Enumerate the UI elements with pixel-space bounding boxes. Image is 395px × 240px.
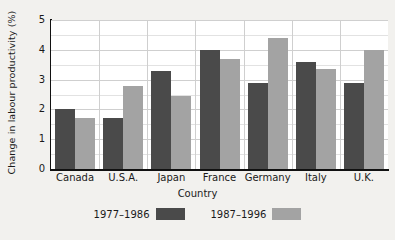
bar-group — [248, 20, 288, 169]
bar — [171, 96, 191, 169]
x-tick-label: Canada — [56, 172, 94, 184]
x-axis-line — [50, 169, 389, 171]
legend-color-swatch — [156, 208, 185, 220]
y-tick-label: 4 — [25, 45, 45, 55]
bar — [200, 50, 220, 169]
bar-group — [344, 20, 384, 169]
legend-entry: 1977–1986 — [94, 208, 185, 220]
y-axis-tick-labels: 012345 — [24, 14, 48, 170]
bar-group — [103, 20, 143, 169]
bar — [344, 83, 364, 169]
bars-layer — [51, 20, 388, 169]
bar-group — [55, 20, 95, 169]
x-axis-title: Country — [0, 188, 395, 199]
y-tick-label: 0 — [25, 164, 45, 174]
y-tick-label: 2 — [25, 104, 45, 114]
bar — [316, 69, 336, 169]
bar-chart-figure: Change in labour productivity (%) 012345… — [0, 0, 395, 240]
bar — [268, 38, 288, 169]
bar — [55, 109, 75, 169]
bar — [75, 118, 95, 169]
bar-group — [200, 20, 240, 169]
x-axis-tick-labels: CanadaU.S.A.JapanFranceGermanyItalyU.K. — [51, 172, 388, 188]
y-tick-label: 3 — [25, 75, 45, 85]
plot-area — [51, 20, 388, 169]
bar — [103, 118, 123, 169]
chart-legend: 1977–19861987–1996 — [0, 208, 395, 220]
bar — [296, 62, 316, 169]
x-tick-label: Germany — [245, 172, 291, 184]
legend-label: 1987–1996 — [211, 209, 267, 220]
legend-color-swatch — [272, 208, 301, 220]
y-tick-label: 1 — [25, 134, 45, 144]
x-tick-label: Italy — [305, 172, 327, 184]
bar — [248, 83, 268, 169]
bar — [220, 59, 240, 169]
x-tick-label: Japan — [157, 172, 185, 184]
bar — [123, 86, 143, 169]
bar — [151, 71, 171, 169]
x-tick-label: U.K. — [354, 172, 374, 184]
bar — [364, 50, 384, 169]
y-axis-title-label: Change in labour productivity (%) — [7, 11, 18, 175]
x-tick-label: France — [203, 172, 236, 184]
y-axis-title: Change in labour productivity (%) — [0, 0, 24, 185]
bar-group — [296, 20, 336, 169]
x-tick-label: U.S.A. — [108, 172, 138, 184]
bar-group — [151, 20, 191, 169]
legend-label: 1977–1986 — [94, 209, 150, 220]
legend-entry: 1987–1996 — [211, 208, 302, 220]
y-tick-label: 5 — [25, 15, 45, 25]
